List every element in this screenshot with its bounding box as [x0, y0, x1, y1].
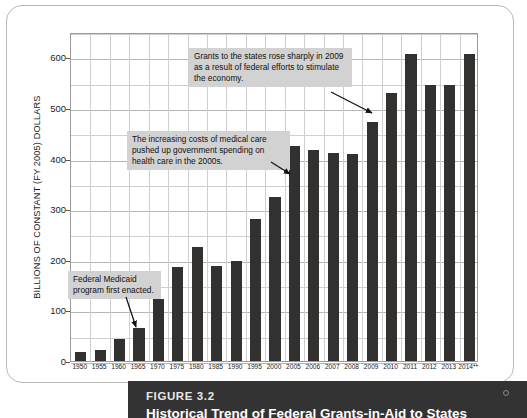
bar	[464, 54, 475, 361]
y-tick-label: 300	[40, 205, 66, 215]
bar	[425, 85, 436, 361]
bar	[250, 219, 261, 361]
bar	[367, 122, 378, 361]
bar	[95, 350, 106, 361]
annotation-callout-grants: Grants to the states rose sharply in 200…	[189, 48, 352, 87]
caption-corner-dot-icon	[503, 390, 509, 396]
bar	[153, 299, 164, 361]
bar	[211, 266, 222, 361]
x-axis-ticks: 1950195519601965197019751980198519901995…	[70, 364, 478, 378]
annotation-callout-medicaid: Federal Medicaid program first enacted.	[68, 271, 161, 299]
bar	[347, 154, 358, 361]
bar	[114, 339, 125, 361]
y-tick-label: 200	[40, 256, 66, 266]
figure-caption-title: Historical Trend of Federal Grants-in-Ai…	[146, 406, 527, 418]
x-tick-label: 2014**	[452, 364, 485, 371]
figure-container: BILLIONS OF CONSTANT (FY 2005) DOLLARS 0…	[0, 0, 527, 418]
bar	[328, 153, 339, 361]
y-tick-mark	[66, 362, 70, 363]
y-tick-label: 600	[40, 53, 66, 63]
bar	[269, 197, 280, 362]
bar	[444, 85, 455, 361]
bar	[405, 54, 416, 361]
annotation-callout-medical-care: The increasing costs of medical care pus…	[127, 131, 290, 170]
y-tick-label: 400	[40, 155, 66, 165]
figure-caption-bar: FIGURE 3.2 Historical Trend of Federal G…	[128, 381, 527, 418]
y-tick-label: 0	[40, 357, 66, 367]
bar	[289, 146, 300, 361]
y-tick-label: 100	[40, 306, 66, 316]
bar	[133, 328, 144, 361]
bar	[172, 267, 183, 361]
bar	[308, 150, 319, 361]
bar	[192, 247, 203, 361]
figure-caption-label: FIGURE 3.2	[146, 390, 527, 403]
y-tick-label: 500	[40, 104, 66, 114]
bar	[386, 93, 397, 361]
bar	[231, 261, 242, 361]
bar	[75, 352, 86, 361]
y-axis-ticks: 0100200300400500600	[36, 33, 66, 362]
